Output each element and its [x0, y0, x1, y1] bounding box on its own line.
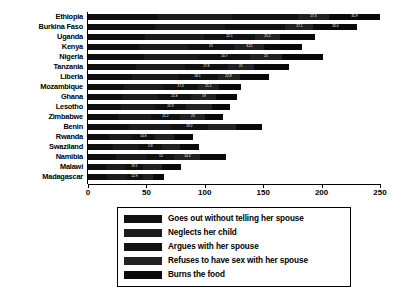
bar-segment: [212, 104, 231, 110]
segment-value-label: 12.9: [132, 175, 138, 178]
segment-value-label: 2.8: [148, 145, 152, 148]
bar-segment: [113, 144, 139, 150]
category-label: Malawi: [0, 162, 86, 172]
bar-segment: [162, 164, 182, 170]
category-label: Uganda: [0, 32, 86, 42]
bar-segment: [106, 164, 126, 170]
bar-segment: 25: [250, 54, 282, 60]
bar-row: 20.725: [88, 52, 380, 62]
legend-item: Neglects her child: [118, 226, 350, 240]
bar-segment: [88, 144, 113, 150]
stacked-bar: 1214.3: [88, 154, 226, 160]
category-label: Nigeria: [0, 52, 86, 62]
bar-segment: 10.8: [132, 134, 154, 140]
bar-segment: [88, 74, 132, 80]
stacked-bar: 18.122.8: [88, 74, 269, 80]
bar-segment: [225, 24, 286, 30]
bar-segment: 12.9: [127, 174, 143, 180]
bar-row: 21.819: [88, 92, 380, 102]
bar-segment: 21: [228, 64, 254, 70]
bar-segment: [88, 84, 124, 90]
bar-row: 19.2: [88, 122, 380, 132]
bar-segment: [264, 44, 301, 50]
bar-segment: 25: [188, 44, 234, 50]
stacked-bar: 253.21: [88, 44, 302, 50]
category-label: Lesotho: [0, 102, 86, 112]
bar-segment: [109, 134, 132, 140]
bar-segment: 23: [180, 114, 205, 120]
bar-segment: [200, 154, 226, 160]
bar-segment: [88, 164, 106, 170]
segment-value-label: 21.8: [171, 95, 177, 98]
bar-segment: 19.1: [125, 164, 143, 170]
stacked-bar: 2.8: [88, 144, 199, 150]
segment-value-label: 31.9: [351, 15, 357, 18]
category-label: Mozambique: [0, 82, 86, 92]
bar-segment: [155, 134, 175, 140]
bar-segment: [232, 14, 298, 20]
bar-row: 21.9: [88, 102, 380, 112]
segment-value-label: 19.2: [186, 125, 192, 128]
bar-row: 27.132.0: [88, 22, 380, 32]
segment-value-label: 27.3: [310, 15, 316, 18]
bar-segment: [158, 14, 232, 20]
stacked-bar: 10.8: [88, 134, 193, 140]
bar-segment: 17.4: [163, 84, 198, 90]
segment-value-label: 19.1: [131, 165, 137, 168]
category-label: Ethiopia: [0, 12, 86, 22]
bar-segment: 32.0: [313, 24, 356, 30]
segment-value-label: 17.4: [177, 85, 183, 88]
bar-segment: [282, 54, 323, 60]
category-label: Benin: [0, 122, 86, 132]
bar-segment: 2.8: [138, 144, 161, 150]
segment-value-label: 25: [264, 55, 268, 58]
stacked-bar: 21.819: [88, 94, 238, 100]
bar-segment: [240, 74, 269, 80]
bar-segment: [88, 54, 144, 60]
stacked-bar: 19.2: [88, 124, 262, 130]
bar-segment: [143, 164, 162, 170]
category-label: Namibia: [0, 152, 86, 162]
category-label: Rwanda: [0, 132, 86, 142]
bar-segment: [121, 104, 155, 110]
x-axis-line: [88, 184, 380, 185]
stacked-bar: 19.1: [88, 164, 181, 170]
bar-segment: [254, 64, 289, 70]
bar-row: 2.8: [88, 142, 380, 152]
stacked-bar: 21.223: [88, 114, 223, 120]
bar-row: 17.821: [88, 62, 380, 72]
legend-item: Goes out without telling her spouse: [118, 212, 350, 226]
segment-value-label: 21: [239, 65, 243, 68]
segment-value-label: 21.9: [167, 105, 173, 108]
bar-row: 12.9: [88, 172, 380, 182]
stacked-bar: 17.421.1: [88, 84, 241, 90]
bar-segment: 3.21: [234, 44, 264, 50]
y-axis-line: [87, 12, 88, 184]
bar-row: 21.223: [88, 112, 380, 122]
bar-segment: [180, 144, 199, 150]
bar-segment: [186, 104, 212, 110]
bar-segment: [174, 134, 193, 140]
bar-segment: 18.1: [178, 74, 218, 80]
bar-segment: [118, 114, 151, 120]
bar-segment: 31.9: [329, 14, 380, 20]
x-tick-label: 0: [86, 189, 90, 197]
bar-segment: [136, 64, 185, 70]
bar-segment: 12: [146, 154, 174, 160]
bar-segment: [88, 64, 136, 70]
stacked-bar: 21.9: [88, 104, 230, 110]
stacked-bar: 27.132.0: [88, 24, 357, 30]
bar-segment: [88, 34, 145, 40]
segment-value-label: 12: [159, 155, 163, 158]
segment-value-label: 20.7: [222, 55, 228, 58]
bar-row: 22.125.2: [88, 32, 380, 42]
segment-value-label: 3.21: [246, 45, 252, 48]
bar-segment: 21.2: [151, 114, 180, 120]
legend-swatch: [124, 257, 162, 265]
category-label: Ghana: [0, 92, 86, 102]
plot-area: 27.331.927.132.022.125.2253.2120.72517.8…: [88, 12, 380, 182]
bar-segment: [88, 14, 158, 20]
x-tick-label: 200: [315, 189, 328, 197]
x-tick-label: 150: [257, 189, 270, 197]
bar-segment: [88, 174, 107, 180]
